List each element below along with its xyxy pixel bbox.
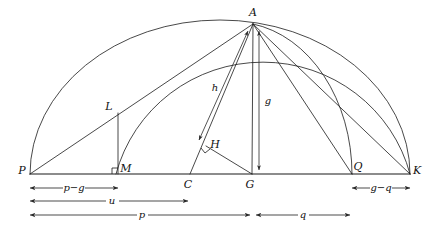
point-label-L: L [104, 100, 112, 113]
right-angle-marker-at-H [201, 148, 210, 153]
dimension-label-q: q [300, 209, 306, 220]
dimension-label-u: u [109, 195, 115, 206]
point-label-K: K [412, 164, 422, 177]
point-label-G: G [246, 178, 255, 191]
segment-G-to-A [252, 24, 253, 174]
dimension-label-p-minus-g: p−g [63, 182, 84, 193]
point-label-M: M [119, 162, 132, 175]
point-label-H: H [209, 138, 220, 151]
segment-C-to-A [190, 24, 253, 174]
arc-outer-P-to-K [30, 20, 410, 174]
measure-label-g: g [265, 95, 271, 106]
point-label-Q: Q [353, 160, 362, 173]
point-label-A: A [248, 6, 257, 19]
segment-P-to-A [30, 24, 253, 174]
point-label-C: C [184, 178, 193, 191]
dimension-label-p: p [139, 209, 146, 220]
geometry-canvas: P L M C H G A Q K h g p−g u p q g−q [0, 0, 435, 229]
arc-inner-M-to-A-to-K [116, 62, 410, 174]
dimension-label-g-minus-q: g−q [370, 182, 391, 193]
point-label-P: P [17, 164, 26, 177]
measure-arrow-h [199, 31, 248, 140]
measure-label-h: h [212, 82, 218, 93]
geometry-figure: P L M C H G A Q K h g p−g u p q g−q [0, 0, 435, 229]
